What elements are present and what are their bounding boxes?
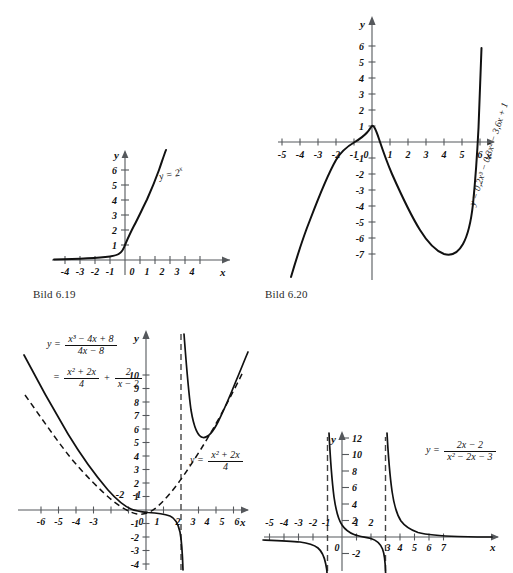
equation-fraction-1: x³ − 4x + 8 4x − 8	[65, 334, 116, 356]
rational-curve-right-branch	[184, 334, 248, 438]
equation-fraction-3: 2 x − 2	[115, 367, 142, 389]
figure-6-21-main-equation: y = x³ − 4x + 8 4x − 8	[47, 334, 119, 356]
ytick-label: 5	[112, 180, 117, 191]
xtick-label: -3	[76, 266, 84, 277]
exponential-curve	[54, 150, 166, 259]
figure-6-19-plot: -4 -3 -2 -1 0 1 2 3 4 1 2 3	[52, 142, 242, 287]
xtick-label: 5	[460, 149, 465, 160]
xtick-label: 0	[335, 542, 340, 553]
xtick-label: 0	[364, 149, 369, 160]
figure-6-19: -4 -3 -2 -1 0 1 2 3 4 1 2 3	[52, 142, 242, 287]
figure-6-21-asymptote-label: y = x² + 2x 4	[190, 450, 245, 472]
y-axis-arrow	[368, 16, 375, 25]
xtick-label: 3	[423, 149, 429, 160]
figure-6-20: -5 -4 -3 -2 -1 0 1 2 3 4 5 6	[272, 8, 512, 288]
xtick-label: -4	[280, 517, 288, 528]
x-axis-arrow	[222, 257, 230, 264]
xtick-label: 0	[139, 516, 144, 527]
cubic-curve	[291, 48, 482, 277]
xtick-label: -3	[294, 517, 302, 528]
x-axis-label: x	[239, 516, 246, 528]
ytick-label: 3	[133, 464, 139, 475]
ytick-label: 12	[352, 433, 362, 444]
xtick-label: -1	[106, 266, 114, 277]
ytick-label: 4	[358, 73, 364, 84]
equation-plus-sign: +	[103, 373, 110, 384]
ytick-label: 6	[359, 41, 364, 52]
xtick-label: 6	[235, 516, 240, 527]
xtick-label: 4	[441, 149, 447, 160]
ytick-label: 1	[134, 491, 139, 502]
xtick-label: 6	[427, 542, 432, 553]
equation-fraction-2: x² + 2x 4	[64, 367, 99, 389]
ytick-label: -6	[356, 233, 364, 244]
fraction-numerator: 2	[115, 367, 142, 378]
ytick-label: 2	[111, 225, 117, 236]
y-axis-arrow	[338, 431, 345, 440]
ytick-label: -4	[356, 201, 364, 212]
xtick-label: 4	[397, 542, 403, 553]
fraction-numerator: x² + 2x	[64, 367, 99, 378]
ytick-label: -5	[356, 217, 364, 228]
ytick-label: -3	[356, 185, 364, 196]
xtick-label: 0	[130, 266, 135, 277]
figure-6-22-equation: y = 2x − 2 x² − 2x − 3	[426, 440, 498, 462]
y-axis-ticks	[342, 438, 349, 554]
ytick-label: 4	[133, 451, 139, 462]
fraction-denominator: x − 2	[115, 378, 142, 390]
y-axis-label: y	[112, 149, 119, 161]
ytick-label: 8	[352, 466, 357, 477]
ytick-label: 4	[111, 195, 117, 206]
ytick-label: 6	[352, 482, 357, 493]
textbook-figure-page: -4 -3 -2 -1 0 1 2 3 4 1 2 3	[0, 0, 513, 573]
fraction-denominator: x² − 2x − 3	[444, 451, 495, 463]
ytick-label: 6	[112, 165, 117, 176]
fraction-denominator: 4x − 8	[65, 345, 116, 357]
ytick-label: 2	[351, 515, 357, 526]
ytick-label: 1	[359, 121, 364, 132]
xtick-label: 2	[405, 149, 411, 160]
ytick-label: 2	[358, 105, 364, 116]
xtick-label: 3	[190, 516, 196, 527]
y-axis-label: y	[132, 332, 139, 344]
y-axis-arrow	[122, 150, 129, 158]
x-axis	[52, 257, 230, 264]
fraction-numerator: x² + 2x	[208, 450, 243, 461]
ytick-label: 4	[351, 499, 357, 510]
ytick-label: -3	[131, 545, 139, 556]
xtick-label: -6	[37, 516, 45, 527]
equation-lhs: y =	[426, 444, 440, 455]
fraction-denominator: 4	[64, 378, 99, 390]
xtick-label: -5	[265, 517, 273, 528]
ytick-label: 7	[134, 410, 140, 421]
y-axis	[142, 330, 149, 570]
y-axis-tick-labels: -4 -3 -2 -1 1 2 3 4 5 6 7 8 9 10	[129, 370, 140, 570]
xtick-label: 2	[368, 517, 374, 528]
xtick-label: 2	[159, 266, 165, 277]
ytick-label: -7	[356, 249, 365, 260]
figure-6-22: -5 -4 -3 -2 -1 0 1 2 3 4 5 6 7	[258, 425, 513, 573]
x-axis-label: x	[219, 266, 226, 278]
fraction-denominator: 4	[208, 461, 243, 473]
ytick-label: -4	[131, 559, 139, 570]
equation-lhs: y =	[47, 338, 61, 349]
equation-fraction: 2x − 2 x² − 2x − 3	[444, 440, 495, 462]
ytick-label: 5	[359, 57, 364, 68]
xtick-label: -3	[314, 149, 322, 160]
y-axis	[122, 150, 129, 275]
ytick-label: -2	[356, 169, 364, 180]
asymptote-lhs: y =	[190, 454, 204, 465]
y-axis	[368, 16, 375, 280]
x-axis-label: x	[489, 541, 496, 553]
xtick-label: -5	[278, 149, 286, 160]
xtick-label: 7	[441, 542, 447, 553]
figure-6-21: -6 -5 -4 -3 -2 -1 0 1 2 3 4 5 6	[0, 312, 262, 573]
xtick-label: -2	[309, 517, 317, 528]
ytick-label: 3	[358, 89, 364, 100]
xtick-label: -4	[296, 149, 304, 160]
hyperbola-branch-left	[263, 540, 327, 573]
x-axis-arrow	[241, 507, 249, 514]
ytick-label: -2	[352, 548, 360, 559]
xtick-label: 1	[388, 149, 393, 160]
xtick-label: -4	[72, 516, 80, 527]
